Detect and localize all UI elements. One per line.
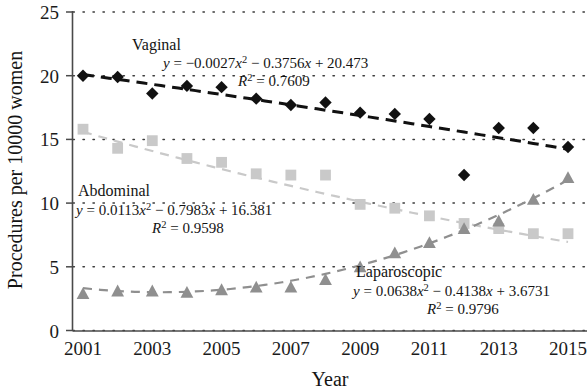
x-tick-label: 2003 xyxy=(133,338,171,359)
data-point-abdominal xyxy=(355,199,366,210)
x-tick-label: 2005 xyxy=(203,338,241,359)
chart-figure: 0510152025 20012003200520072009201120132… xyxy=(0,0,587,391)
series-equation-laparoscopic: y = 0.0638x2 − 0.4138x + 3.6731 xyxy=(351,282,550,300)
y-tick-label: 25 xyxy=(40,2,59,23)
data-point-abdominal xyxy=(528,228,539,239)
x-tick-label: 2007 xyxy=(272,338,310,359)
y-tick-label: 0 xyxy=(50,321,60,342)
series-label-abdominal: Abdominal xyxy=(78,182,151,199)
series-label-laparoscopic: Laparoscopic xyxy=(356,263,442,281)
data-point-abdominal xyxy=(424,210,435,221)
data-point-abdominal xyxy=(147,135,158,146)
data-point-abdominal xyxy=(251,168,262,179)
x-tick-label: 2001 xyxy=(64,338,102,359)
series-equation-abdominal: y = 0.0113x2 − 0.7983x + 16.381 xyxy=(74,201,272,219)
x-tick-label: 2011 xyxy=(411,338,448,359)
data-point-abdominal xyxy=(182,153,193,164)
y-tick-label: 15 xyxy=(40,129,59,150)
data-point-abdominal xyxy=(216,157,227,168)
y-tick-label: 5 xyxy=(50,257,60,278)
x-tick-label: 2009 xyxy=(341,338,379,359)
data-point-abdominal xyxy=(320,170,331,181)
data-point-abdominal xyxy=(389,203,400,214)
y-tick-label: 20 xyxy=(40,66,59,87)
series-label-vaginal: Vaginal xyxy=(132,36,181,54)
data-point-abdominal xyxy=(285,170,296,181)
y-axis-title: Procedures per 10000 women xyxy=(4,51,27,289)
data-point-abdominal xyxy=(563,228,574,239)
series-equation-vaginal: y = −0.0027x2 − 0.3756x + 20.473 xyxy=(161,54,368,72)
x-tick-label: 2013 xyxy=(480,338,518,359)
x-axis-title: Year xyxy=(312,368,349,390)
chart-canvas: 0510152025 20012003200520072009201120132… xyxy=(0,0,587,391)
data-point-abdominal xyxy=(78,124,89,135)
data-point-abdominal xyxy=(112,143,123,154)
x-tick-label: 2015 xyxy=(549,338,587,359)
y-tick-label: 10 xyxy=(40,193,59,214)
